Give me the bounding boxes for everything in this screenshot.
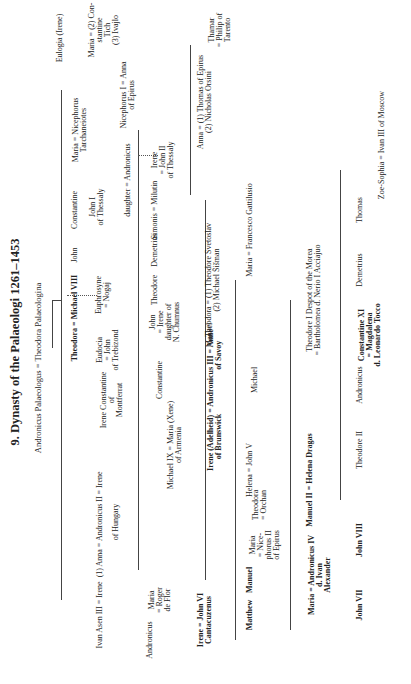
- person-john: John: [71, 247, 79, 262]
- person-anna-hungary: of Hungary: [112, 504, 120, 541]
- page-title: 9. Dynasty of the Palaeologi 1261–1453: [9, 239, 22, 446]
- person-maria-gattilusio: Maria = Francesco Gattilusio: [246, 183, 254, 277]
- person-irene-constantine: Irene Constantine of Montferrat: [100, 372, 124, 429]
- person-john-vi: Irene = John VI Cantacuzenus: [197, 593, 213, 647]
- person-john-thessaly: John I of Thessaly: [89, 189, 105, 226]
- person-michael: Michael: [251, 367, 259, 393]
- person-andronicus-ii-marriages: Ivan Asen III = Irene (1) Anna = Androni…: [96, 471, 104, 648]
- person-daughter-andronicus: daughter = Andronicus: [124, 143, 132, 216]
- person-simonis: Simonis = Milutin: [151, 181, 159, 240]
- person-manuel-ii: Manuel II = Helena Dragas: [306, 433, 314, 526]
- generation-line: [340, 170, 341, 500]
- person-andronicus-3: Andronicus: [356, 366, 364, 403]
- person-michael-ix: Michael IX = Maria (Xene) of Armenia: [167, 401, 183, 489]
- person-anna-thomas: Anna = (1) Thomas of Epirus (2) Nicholas…: [197, 55, 213, 149]
- person-matthew: Matthew: [246, 600, 254, 631]
- person-michael-viii: Theodora = Michael VIII: [71, 275, 79, 361]
- person-john-irene: John = Irene daughter of N. Chumnus: [149, 302, 181, 342]
- generation-line: [290, 300, 291, 630]
- person-andronicus: Andronicus: [146, 621, 154, 658]
- person-andronicus-iv: Maria = Andronicus IV d. Ivan Alexander: [308, 535, 332, 615]
- person-theodore-ii: Theodore II: [356, 431, 364, 469]
- person-constantine: Constantine: [71, 191, 79, 229]
- generation-line: [61, 90, 62, 600]
- connector: [52, 300, 53, 348]
- dotted-connector: [67, 295, 97, 296]
- person-manuel-2: Manuel: [246, 567, 254, 593]
- generation-line: [235, 280, 236, 640]
- person-constantine-xi: Constantine XI = Magdalena d. Leonardo T…: [358, 303, 382, 366]
- person-theodore: Theodore: [151, 275, 159, 306]
- person-theodora-svetoslav: Theodora = (1) Theodore Svetoslav (2) Mi…: [205, 223, 221, 337]
- person-maria-tich: Maria = (2) Con- stantine Tich (3) Ivajl…: [88, 3, 120, 58]
- founders-couple: Andronicus Palaeologus = Theodora Palaeo…: [34, 283, 42, 453]
- person-eulogia: Eulogia (Irene): [56, 14, 64, 63]
- person-thomas: Thomas: [356, 197, 364, 223]
- person-nicephorus-anna: Nicephorus I = Anna of Epirus: [120, 62, 136, 129]
- person-maria-roger: Maria = Roger de Flor: [148, 587, 172, 613]
- person-demetrius-2: Demetrius: [356, 253, 364, 286]
- person-theodora-orchan: Theodora = Orchan: [252, 490, 268, 521]
- person-maria-nicephorus: Maria = Nicephorus Tarchaneiotes: [72, 98, 88, 163]
- person-euphrosyne: Euphrosyne = Nogaj: [95, 276, 111, 314]
- person-zoe-sophia: Zoe-Sophia = Ivan III of Moscow: [378, 91, 386, 199]
- generation-line: [138, 130, 139, 570]
- person-andronicus-iii: Irene (Adelheid) = Andronicus III = Anne…: [207, 329, 223, 471]
- person-eudocia: Eudocia = John of Trebizond: [96, 329, 120, 370]
- person-john-viii: John VIII: [356, 523, 364, 557]
- person-demetrius: Demetrius: [151, 233, 159, 266]
- person-theodore-i: Theodore I Despot of the Morea = Barthol…: [306, 244, 322, 355]
- person-irene-john-ii: Irene = John II of Thessaly: [151, 142, 175, 179]
- person-constantine-2: Constantine: [156, 361, 164, 399]
- person-thamar: Thamar = Philip of Tarento: [208, 13, 232, 47]
- connector: [52, 300, 61, 301]
- person-john-vii: John VII: [356, 590, 364, 621]
- generation-line: [190, 45, 191, 195]
- person-maria-nicephorus-ii: Maria = Nice- phorus II of Epirus: [249, 530, 281, 560]
